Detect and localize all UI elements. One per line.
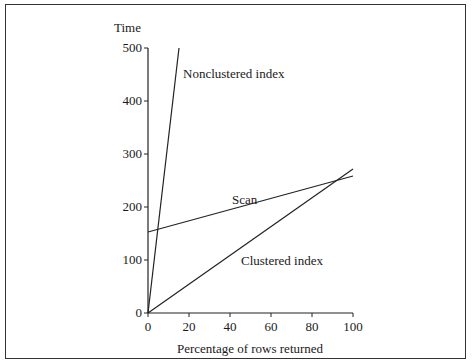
series-clustered-index <box>148 169 353 313</box>
x-axis-title: Percentage of rows returned <box>177 341 324 356</box>
svg-text:100: 100 <box>343 319 363 334</box>
y-tick-labels: 0 100 200 300 400 500 <box>123 40 143 320</box>
svg-text:80: 80 <box>306 319 319 334</box>
svg-text:20: 20 <box>183 319 196 334</box>
svg-text:400: 400 <box>123 93 143 108</box>
line-chart: 0 100 200 300 400 500 0 20 40 60 80 100 … <box>0 0 473 364</box>
svg-text:500: 500 <box>123 40 143 55</box>
label-scan: Scan <box>232 192 258 207</box>
svg-text:0: 0 <box>136 305 143 320</box>
svg-text:0: 0 <box>145 319 152 334</box>
label-nonclustered-index: Nonclustered index <box>183 66 285 81</box>
svg-text:60: 60 <box>265 319 278 334</box>
svg-text:100: 100 <box>123 252 143 267</box>
svg-text:300: 300 <box>123 146 143 161</box>
series-nonclustered-index <box>148 48 179 313</box>
svg-text:40: 40 <box>224 319 237 334</box>
y-axis-title: Time <box>114 20 141 35</box>
label-clustered-index: Clustered index <box>241 253 323 268</box>
svg-text:200: 200 <box>123 199 143 214</box>
x-tick-labels: 0 20 40 60 80 100 <box>145 319 363 334</box>
